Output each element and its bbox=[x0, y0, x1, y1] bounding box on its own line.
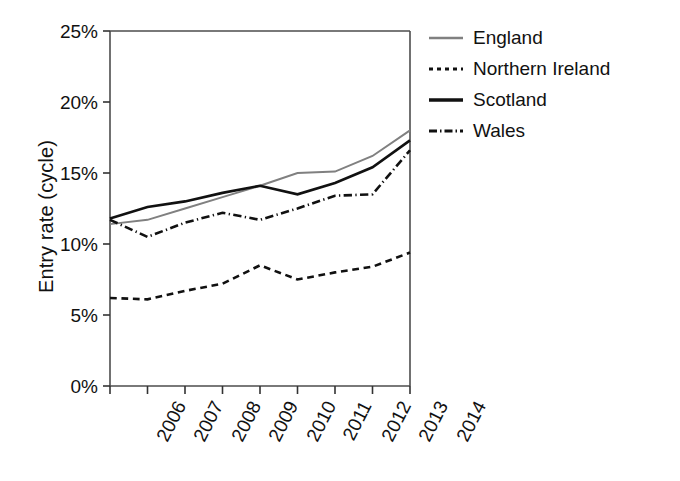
y-tick-label: 20% bbox=[36, 93, 98, 112]
legend-label: England bbox=[473, 28, 543, 48]
chart-canvas bbox=[110, 31, 410, 386]
legend-line-swatch-england bbox=[428, 31, 464, 45]
legend-line-swatch-wales bbox=[428, 124, 464, 138]
y-tick-label: 0% bbox=[36, 377, 98, 396]
series-line-england bbox=[110, 130, 410, 224]
x-tick-label: 2009 bbox=[265, 398, 301, 444]
y-axis-tick-labels: 25% 20% 15% 10% 5% 0% bbox=[30, 0, 98, 481]
legend-label: Scotland bbox=[473, 90, 547, 110]
legend-item-scotland: Scotland bbox=[428, 84, 678, 115]
y-tick-label: 25% bbox=[36, 22, 98, 41]
axis-frame bbox=[110, 31, 410, 386]
legend-label: Wales bbox=[473, 121, 525, 141]
x-tick-label: 2007 bbox=[190, 398, 226, 444]
x-tick-label: 2010 bbox=[303, 398, 339, 444]
series-line-wales bbox=[110, 150, 410, 237]
y-tick-label: 10% bbox=[36, 235, 98, 254]
chart-figure: Entry rate (cycle) 25% 20% 15% 10% 5% 0%… bbox=[0, 0, 680, 481]
x-tick-label: 2013 bbox=[415, 398, 451, 444]
legend-line-swatch-scotland bbox=[428, 93, 464, 107]
legend-line-swatch-northern-ireland bbox=[428, 62, 464, 76]
x-tick-label: 2014 bbox=[453, 398, 489, 444]
series-line-northern-ireland bbox=[110, 253, 410, 300]
legend-item-wales: Wales bbox=[428, 115, 678, 146]
y-tick-label: 15% bbox=[36, 164, 98, 183]
plot-area bbox=[110, 31, 410, 386]
chart-legend: England Northern Ireland Scotland Wales bbox=[428, 22, 678, 146]
legend-item-england: England bbox=[428, 22, 678, 53]
x-tick-label: 2012 bbox=[378, 398, 414, 444]
legend-label: Northern Ireland bbox=[473, 59, 610, 79]
data-series-group bbox=[110, 130, 410, 299]
x-tick-label: 2006 bbox=[153, 398, 189, 444]
y-tick-label: 5% bbox=[36, 306, 98, 325]
axis-ticks bbox=[103, 31, 410, 394]
x-tick-label: 2011 bbox=[339, 398, 374, 443]
series-line-scotland bbox=[110, 140, 410, 218]
legend-item-northern-ireland: Northern Ireland bbox=[428, 53, 678, 84]
x-tick-label: 2008 bbox=[228, 398, 264, 444]
